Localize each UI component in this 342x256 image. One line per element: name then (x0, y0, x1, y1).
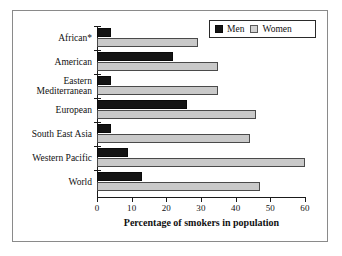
category-label: Eastern Mediterranean (0, 76, 92, 96)
x-axis-tick-label: 50 (266, 203, 275, 213)
bar-women (97, 182, 260, 191)
bar-women (97, 86, 218, 95)
category-label: World (0, 177, 92, 187)
bar-men (97, 52, 173, 61)
legend-swatch-men (215, 25, 223, 33)
x-axis-tick-label: 60 (300, 203, 309, 213)
legend-swatch-women (250, 25, 258, 33)
x-axis-tick (166, 197, 167, 202)
category-label: European (0, 105, 92, 115)
legend-entry-women: Women (250, 24, 291, 34)
legend-entry-men: Men (215, 24, 244, 34)
chart-legend: Men Women (209, 20, 316, 38)
x-axis-tick-label: 10 (127, 203, 136, 213)
x-axis-tick-label: 20 (162, 203, 171, 213)
x-axis-tick-label: 40 (231, 203, 240, 213)
x-axis-tick (236, 197, 237, 202)
category-label: African* (0, 33, 92, 43)
x-axis-tick (97, 197, 98, 202)
y-axis-tick (94, 74, 101, 75)
bar-women (97, 134, 250, 143)
legend-label-women: Women (262, 24, 291, 34)
category-label: South East Asia (0, 129, 92, 139)
x-axis-tick (305, 197, 306, 202)
x-axis-tick-label: 30 (196, 203, 205, 213)
category-label: Western Pacific (0, 153, 92, 163)
bar-men (97, 124, 111, 133)
bar-women (97, 158, 305, 167)
x-axis-tick-label: 0 (95, 203, 100, 213)
bar-women (97, 110, 256, 119)
y-axis-tick (94, 170, 101, 171)
y-axis-tick (94, 98, 101, 99)
y-axis-tick (94, 146, 101, 147)
category-label: American (0, 57, 92, 67)
bar-women (97, 62, 218, 71)
bar-men (97, 148, 128, 157)
y-axis-tick (94, 122, 101, 123)
chart-figure: 0102030405060 African*AmericanEastern Me… (0, 0, 342, 256)
bar-men (97, 76, 111, 85)
bar-men (97, 172, 142, 181)
x-axis-tick (201, 197, 202, 202)
y-axis-tick (94, 26, 101, 27)
bar-men (97, 100, 187, 109)
x-axis-title: Percentage of smokers in population (97, 217, 306, 228)
bar-women (97, 38, 198, 47)
x-axis-tick (132, 197, 133, 202)
y-axis-tick (94, 50, 101, 51)
bar-men (97, 28, 111, 37)
legend-label-men: Men (227, 24, 244, 34)
x-axis-tick (270, 197, 271, 202)
